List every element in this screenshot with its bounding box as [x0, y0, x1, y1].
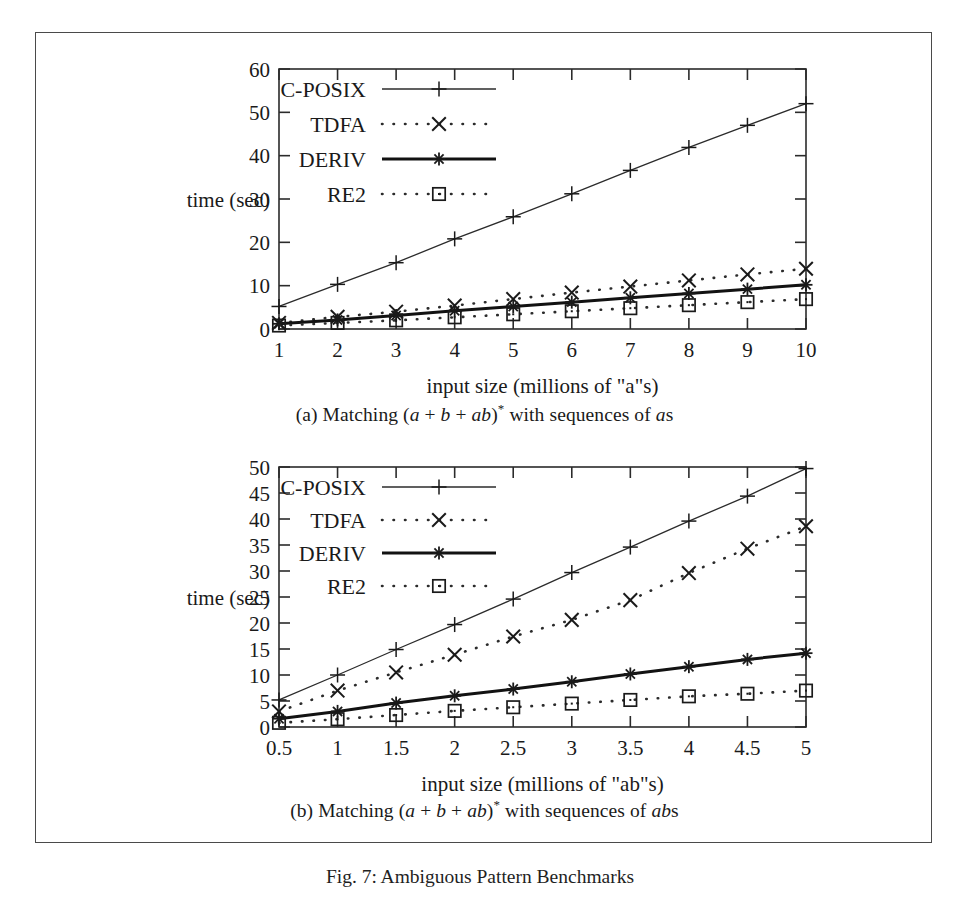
y-tick-label: 20 [249, 612, 270, 636]
plus-marker [389, 642, 404, 657]
x-tick-label: 10 [796, 338, 817, 362]
plus-marker [389, 255, 404, 270]
x-tick-label: 3.5 [617, 736, 643, 760]
square-marker [433, 188, 445, 200]
figure-frame: 010203040506012345678910time (sec)input … [35, 32, 932, 843]
caption-b-plus2: + [446, 800, 467, 821]
star-marker [624, 667, 637, 680]
cross-marker [741, 542, 755, 556]
caption-b-tail-ital: ab [651, 800, 671, 821]
y-tick-label: 35 [249, 534, 270, 558]
figure-caption: Fig. 7: Ambiguous Pattern Benchmarks [0, 866, 960, 904]
x-tick-label: 2 [449, 736, 460, 760]
cross-marker [506, 630, 520, 644]
star-marker [448, 689, 461, 702]
x-tick-label: 6 [567, 338, 578, 362]
plus-marker [330, 668, 345, 683]
star-marker [682, 287, 695, 300]
y-tick-label: 50 [249, 456, 270, 480]
x-tick-label: 5 [801, 736, 812, 760]
plus-marker [447, 231, 462, 246]
caption-b: (b) Matching (a + b + ab)* with sequence… [36, 797, 933, 822]
plus-marker [506, 209, 521, 224]
star-marker [433, 547, 446, 560]
caption-a-tail-ital: a [656, 404, 666, 425]
x-tick-label: 5 [508, 338, 519, 362]
x-tick-label: 1 [274, 338, 285, 362]
plus-marker [506, 592, 521, 607]
star-marker [433, 153, 446, 166]
caption-b-plus1: + [415, 800, 436, 821]
y-axis-label: time (sec) [187, 188, 270, 212]
cross-marker [448, 648, 462, 662]
legend-label-c-posix: C-POSIX [280, 77, 366, 102]
x-tick-label: 7 [625, 338, 636, 362]
star-marker [331, 705, 344, 718]
legend-label-tdfa: TDFA [310, 508, 366, 533]
star-marker [507, 300, 520, 313]
x-tick-label: 4.5 [734, 736, 760, 760]
y-tick-label: 20 [249, 231, 270, 255]
plus-marker [447, 617, 462, 632]
caption-a-expr-b: b [441, 404, 451, 425]
y-tick-label: 30 [249, 560, 270, 584]
star-marker [741, 283, 754, 296]
plus-marker [564, 565, 579, 580]
plus-marker [432, 480, 447, 495]
star-marker [800, 647, 813, 660]
y-tick-label: 40 [249, 144, 270, 168]
x-tick-label: 4 [449, 338, 460, 362]
square-marker [741, 688, 753, 700]
star-marker [800, 278, 813, 291]
y-tick-label: 15 [249, 638, 270, 662]
chart-panel-b: 051015202530354045500.511.522.533.544.55… [36, 445, 933, 840]
caption-b-tail-end: s [671, 800, 679, 821]
plus-marker [623, 163, 638, 178]
y-tick-label: 10 [249, 274, 270, 298]
star-marker [565, 675, 578, 688]
caption-b-lead: (b) Matching ( [290, 800, 405, 821]
x-tick-label: 3 [391, 338, 402, 362]
x-axis-label: input size (millions of "ab"s) [421, 772, 663, 796]
y-axis-label: time (sec) [187, 586, 270, 610]
legend-label-re2: RE2 [327, 182, 366, 207]
y-tick-label: 0 [260, 318, 271, 342]
legend-label-deriv: DERIV [299, 541, 366, 566]
x-tick-label: 4 [684, 736, 695, 760]
cross-marker [331, 684, 345, 698]
chart-panel-a: 010203040506012345678910time (sec)input … [36, 41, 933, 441]
cross-marker [682, 566, 696, 580]
x-axis-label: input size (millions of "a"s) [427, 374, 659, 398]
caption-b-expr-ab: ab [467, 800, 487, 821]
plus-marker [330, 277, 345, 292]
plus-marker [432, 82, 447, 97]
x-tick-label: 1 [332, 736, 343, 760]
star-marker [390, 697, 403, 710]
legend-label-c-posix: C-POSIX [280, 475, 366, 500]
star-marker [565, 296, 578, 309]
y-tick-label: 60 [249, 58, 270, 82]
caption-a: (a) Matching (a + b + ab)* with sequence… [36, 401, 933, 426]
y-tick-label: 10 [249, 664, 270, 688]
series-markers-re2 [273, 684, 812, 729]
square-marker [433, 580, 445, 592]
x-tick-label: 2.5 [500, 736, 526, 760]
plus-marker [681, 514, 696, 529]
plus-marker [623, 540, 638, 555]
plus-marker [272, 299, 287, 314]
y-tick-label: 45 [249, 482, 270, 506]
caption-a-expr-a: a [410, 404, 420, 425]
chart-b-legend: C-POSIXTDFADERIVRE2 [280, 475, 496, 599]
star-marker [682, 660, 695, 673]
series-line-deriv [279, 653, 806, 719]
caption-b-tail: with sequences of [500, 800, 651, 821]
plus-marker [799, 461, 814, 476]
legend-label-tdfa: TDFA [310, 112, 366, 137]
x-tick-label: 9 [742, 338, 753, 362]
caption-b-expr-b: b [436, 800, 446, 821]
caption-a-close: ) [491, 404, 498, 425]
caption-a-plus1: + [420, 404, 441, 425]
plus-marker [740, 489, 755, 504]
cross-marker [741, 268, 755, 282]
figure-root: 010203040506012345678910time (sec)input … [0, 0, 960, 904]
